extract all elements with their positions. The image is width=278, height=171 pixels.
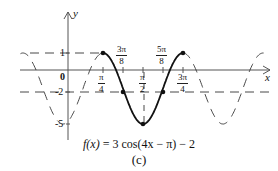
x-tick-3pi-8: 3π8: [116, 45, 127, 66]
key-point: [161, 90, 166, 95]
x-tick-pi-2: π2: [139, 73, 146, 94]
x-axis-label: x: [265, 72, 270, 83]
key-point: [121, 90, 126, 95]
x-tick-3pi-4: 3π4: [177, 73, 188, 94]
x-tick-5pi-8: 5π8: [156, 45, 167, 66]
y-tick-neg5: -5: [55, 119, 63, 129]
y-axis-label: y: [73, 8, 78, 19]
key-point: [101, 51, 106, 56]
key-point: [181, 51, 186, 56]
function-formula: f(x) = 3 cos(4x − π) − 2: [0, 137, 278, 152]
y-tick-1: 1: [60, 48, 65, 58]
origin-label: 0: [60, 72, 65, 82]
figure-label: (c): [0, 152, 278, 168]
y-tick-neg2: -2: [55, 87, 63, 97]
x-tick-pi-4: π4: [98, 73, 105, 94]
key-point: [141, 122, 146, 127]
dashed-curve-right: [183, 53, 266, 124]
